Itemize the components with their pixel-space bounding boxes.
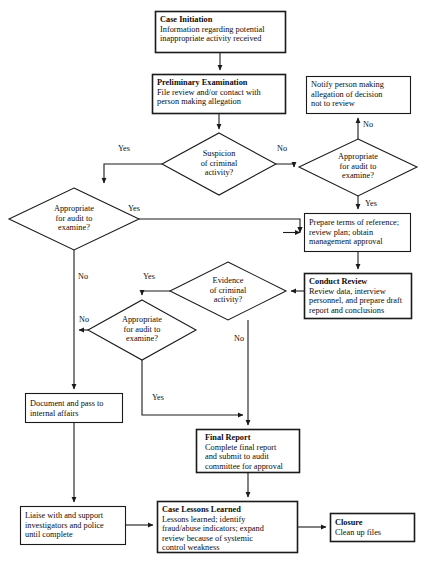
- node-notify-person: [307, 77, 411, 114]
- node-case-lessons-learned: [158, 502, 298, 553]
- node-suspicion-of-criminal-activity: [162, 133, 276, 195]
- node-prepare-terms-of-reference: [305, 214, 411, 252]
- edge-label-suspicion-no: No: [277, 144, 287, 153]
- edge-label-suspicion-yes: Yes: [118, 144, 130, 153]
- edge-label-audit-mid-no: No: [79, 315, 89, 324]
- edge-suspicion-no: [276, 164, 294, 167]
- node-preliminary-examination: [153, 75, 286, 114]
- edge-evidence-yes: [142, 291, 170, 295]
- node-appropriate-for-audit-mid: [88, 300, 196, 360]
- node-liaise-with-investigators: [21, 507, 126, 545]
- node-case-initiation: [156, 12, 286, 53]
- node-final-report: [197, 430, 300, 473]
- edge-label-audit-right-yes: Yes: [365, 199, 377, 208]
- edge-label-audit-mid-yes: Yes: [152, 393, 164, 402]
- node-appropriate-for-audit-right: [299, 139, 417, 196]
- edge-label-evidence-yes: Yes: [143, 272, 155, 281]
- edge-audit-mid-yes: [142, 360, 243, 415]
- edge-suspicion-yes: [104, 164, 162, 183]
- node-conduct-review: [305, 274, 412, 319]
- edge-label-audit-left-yes: Yes: [128, 204, 140, 213]
- flowchart-svg: [0, 0, 427, 575]
- edge-label-evidence-no: No: [234, 334, 244, 343]
- edge-label-audit-right-no: No: [363, 120, 373, 129]
- node-document-and-pass: [26, 394, 123, 423]
- edge-label-audit-left-no: No: [78, 272, 88, 281]
- node-closure: [331, 514, 415, 542]
- node-evidence-of-criminal-activity: [170, 262, 286, 320]
- node-appropriate-for-audit-left: [9, 188, 139, 250]
- edge-audit-left-yes: [139, 219, 300, 233]
- flowchart-canvas: Case Initiation Information regarding po…: [0, 0, 427, 575]
